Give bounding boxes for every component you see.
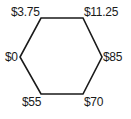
vertex-label-top-right: $11.25 [84,6,118,18]
vertex-label-bottom-left: $55 [22,96,41,108]
vertex-label-right: $85 [103,51,122,63]
vertex-label-left: $0 [5,51,18,63]
vertex-label-bottom-right: $70 [84,96,103,108]
vertex-label-top-left: $3.75 [11,6,40,18]
